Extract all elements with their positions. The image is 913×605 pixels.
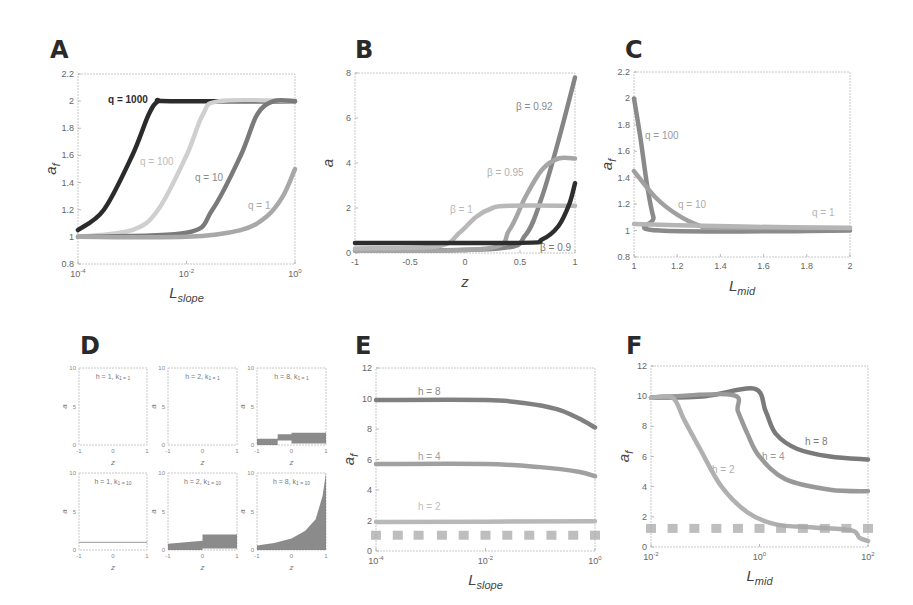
y-tick-label: 1 <box>69 232 74 242</box>
y-tick-label: 10 <box>247 470 254 476</box>
x-tick-label: -1 <box>165 448 171 454</box>
y-tick-label: 0 <box>367 546 372 556</box>
axis-label: Lslope <box>169 284 204 304</box>
axis-label: z <box>110 458 115 467</box>
axis-label: af <box>598 158 618 170</box>
data-band <box>168 535 237 550</box>
axis-label: af <box>42 162 62 174</box>
y-tick-label: 2 <box>367 516 372 526</box>
x-tick-label: 1.8 <box>801 261 814 271</box>
data-line <box>78 100 295 237</box>
y-tick-label: 1.8 <box>617 120 630 130</box>
x-tick-label: 2 <box>847 261 852 271</box>
subplot-title: h = 8, k1 = 1 <box>274 373 309 381</box>
series-label: h = 4 <box>418 451 441 462</box>
axis-label: z <box>289 458 294 467</box>
chart-panel-c: 0.811.21.41.61.822.211.21.41.61.82Lmidaf… <box>598 67 853 297</box>
y-tick-label: 10 <box>158 470 165 476</box>
data-marker <box>546 531 556 540</box>
y-tick-label: 1.4 <box>617 173 630 183</box>
subplot-title: h = 8, k1 = 10 <box>273 478 310 486</box>
data-marker <box>689 524 699 533</box>
x-tick-label: -1 <box>254 448 260 454</box>
x-tick-label: -1 <box>76 553 82 559</box>
x-tick-label: 0 <box>290 553 294 559</box>
y-tick-label: 10 <box>247 365 254 371</box>
svg-text:10-2: 10-2 <box>478 555 494 566</box>
data-marker <box>568 531 578 540</box>
data-band <box>257 433 326 445</box>
data-marker <box>502 531 512 540</box>
x-tick-label: 0 <box>290 448 294 454</box>
data-marker <box>733 524 743 533</box>
axis-label: a <box>60 509 69 514</box>
axis-label: af <box>615 450 635 462</box>
x-tick-label: 1 <box>572 257 577 267</box>
y-tick-label: 6 <box>642 452 647 462</box>
chart-panel-e: 02468101210-410-2100Lslopeafh = 8h = 4h … <box>340 363 602 591</box>
y-tick-label: 1.2 <box>617 199 630 209</box>
y-tick-label: 10 <box>158 365 165 371</box>
subplot: 0510-101zah = 8, k1 = 1 <box>238 365 328 467</box>
series-label: q = 100 <box>140 156 174 167</box>
y-tick-label: 5 <box>162 404 166 410</box>
axis-label: a <box>319 159 336 167</box>
y-tick-label: 8 <box>642 421 647 431</box>
x-tick-label: 1 <box>235 553 239 559</box>
data-marker <box>646 524 656 533</box>
data-marker <box>755 524 765 533</box>
svg-text:10-2: 10-2 <box>179 268 195 279</box>
y-tick-label: 4 <box>642 482 647 492</box>
y-tick-label: 1 <box>625 226 630 236</box>
x-tick-label: 100 <box>588 555 602 566</box>
subplot-title: h = 2, k1 = 1 <box>185 373 220 381</box>
y-tick-label: 5 <box>73 404 77 410</box>
y-tick-label: 2.2 <box>61 69 74 79</box>
data-line <box>634 224 850 228</box>
series-label: h = 2 <box>712 464 735 475</box>
data-line <box>651 394 868 491</box>
svg-text:10-2: 10-2 <box>643 551 659 562</box>
y-tick-label: 8 <box>367 424 372 434</box>
data-line <box>376 400 595 428</box>
y-tick-label: 2 <box>69 96 74 106</box>
subplot: 0510-101zah = 1, k1 = 1 <box>60 365 149 467</box>
y-tick-label: 4 <box>346 158 351 168</box>
axis-label: a <box>238 509 247 514</box>
data-marker <box>863 524 873 533</box>
x-tick-label: 1.4 <box>714 261 727 271</box>
svg-text:10-4: 10-4 <box>70 268 86 279</box>
series-label: q = 1000 <box>108 94 148 105</box>
y-tick-label: 1.2 <box>61 205 74 215</box>
series-label: β = 0.9 <box>540 242 571 253</box>
x-tick-label: 100 <box>288 268 302 279</box>
y-tick-label: 10 <box>362 394 372 404</box>
svg-text:102: 102 <box>861 551 875 562</box>
data-marker <box>524 531 534 540</box>
series-label: h = 2 <box>418 501 441 512</box>
y-tick-label: 0 <box>642 542 647 552</box>
y-tick-label: 2.2 <box>617 67 630 77</box>
svg-text:100: 100 <box>753 551 767 562</box>
y-tick-label: 10 <box>69 365 76 371</box>
subplot: 0510-101zah = 2, k1 = 10 <box>149 470 239 572</box>
x-tick-label: 0 <box>201 448 205 454</box>
data-marker <box>820 524 830 533</box>
figure-canvas: 0.811.21.41.61.822.210-410-2100Lslopeafq… <box>0 0 913 605</box>
series-label: h = 8 <box>418 386 441 397</box>
series-label: q = 100 <box>645 130 679 141</box>
y-tick-label: 0.8 <box>61 259 74 269</box>
data-line <box>78 100 295 237</box>
y-tick-label: 1.4 <box>61 178 74 188</box>
y-tick-label: 0.8 <box>617 252 630 262</box>
axis-label: a <box>238 404 247 409</box>
data-marker <box>776 524 786 533</box>
data-marker <box>371 531 381 540</box>
y-tick-label: 8 <box>346 68 351 78</box>
x-tick-label: 1 <box>631 261 636 271</box>
x-tick-label: 0 <box>201 553 205 559</box>
y-tick-label: 12 <box>637 361 647 371</box>
data-marker <box>798 524 808 533</box>
axis-label: a <box>149 404 158 409</box>
y-tick-label: 6 <box>367 455 372 465</box>
